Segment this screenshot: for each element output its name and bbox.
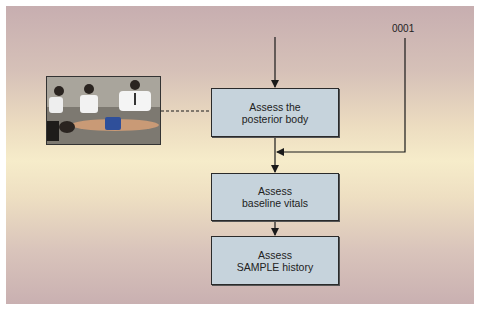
step-assess-sample-history: Assess SAMPLE history bbox=[211, 236, 339, 285]
assessment-photo bbox=[46, 76, 161, 145]
step-assess-baseline-vitals: Assess baseline vitals bbox=[211, 173, 339, 221]
step-label-line2: posterior body bbox=[242, 113, 309, 125]
photo-illustration bbox=[47, 77, 160, 144]
step-label-line2: SAMPLE history bbox=[237, 261, 313, 273]
step-label-line2: baseline vitals bbox=[242, 197, 308, 209]
reference-label: 0001 bbox=[392, 23, 414, 34]
step-assess-posterior-body: Assess the posterior body bbox=[211, 88, 339, 137]
step-label-line1: Assess the bbox=[242, 101, 309, 113]
step-label-line1: Assess bbox=[242, 185, 308, 197]
step-label-line1: Assess bbox=[237, 249, 313, 261]
